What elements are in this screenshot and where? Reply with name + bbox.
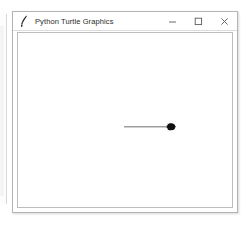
- minimize-button[interactable]: [159, 12, 185, 31]
- screenshot-root: Python Turtle Graphics: [0, 0, 248, 226]
- turtle-drawing-layer: [18, 33, 232, 207]
- background-window-edge-inner: [0, 26, 4, 196]
- turtle-cursor: [166, 123, 176, 131]
- close-button[interactable]: [211, 12, 237, 31]
- turtle-canvas[interactable]: [17, 32, 233, 208]
- window-title: Python Turtle Graphics: [35, 12, 114, 31]
- maximize-button[interactable]: [185, 12, 211, 31]
- python-feather-icon: [19, 15, 30, 28]
- canvas-background: [18, 33, 232, 207]
- window-titlebar[interactable]: Python Turtle Graphics: [13, 12, 237, 31]
- turtle-graphics-window: Python Turtle Graphics: [12, 11, 238, 213]
- window-controls: [159, 12, 237, 31]
